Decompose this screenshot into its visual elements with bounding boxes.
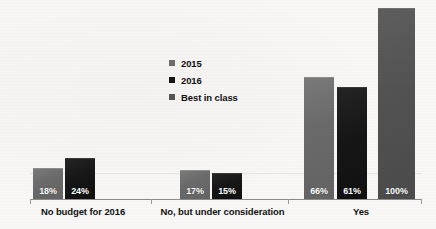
legend-swatch-icon bbox=[169, 60, 175, 66]
legend-item-label: Best in class bbox=[181, 92, 238, 103]
legend-item-label: 2015 bbox=[181, 58, 202, 69]
bar-yes-best-value-label: 100% bbox=[378, 186, 415, 196]
legend-item-2015[interactable]: 2015 bbox=[169, 56, 238, 70]
category-label-1: No, but under consideration bbox=[150, 206, 295, 217]
bar-no-budget-2016: 24% bbox=[65, 158, 95, 199]
bar-no-budget-2016-value-label: 24% bbox=[65, 186, 95, 196]
legend-item-best-in-class[interactable]: Best in class bbox=[169, 90, 238, 104]
bar-yes-2016-value-label: 61% bbox=[337, 186, 367, 196]
legend-item-label: 2016 bbox=[181, 75, 202, 86]
bar-chart: 18%24%17%15%66%61%100% 20152016Best in c… bbox=[0, 0, 436, 229]
category-label-2: Yes bbox=[300, 206, 422, 217]
x-axis-line bbox=[30, 199, 422, 200]
bar-consideration-2016-value-label: 15% bbox=[212, 186, 242, 196]
axis-tick-0 bbox=[30, 199, 31, 204]
bar-yes-2015-value-label: 66% bbox=[304, 186, 334, 196]
bar-yes-2015-fill bbox=[304, 77, 334, 199]
chart-legend: 20152016Best in class bbox=[169, 56, 238, 107]
bar-consideration-2016: 15% bbox=[212, 173, 242, 199]
bar-no-budget-2015-value-label: 18% bbox=[33, 186, 63, 196]
bar-consideration-2015-value-label: 17% bbox=[180, 186, 210, 196]
category-label-0: No budget for 2016 bbox=[22, 206, 144, 217]
legend-item-2016[interactable]: 2016 bbox=[169, 73, 238, 87]
bar-consideration-2015: 17% bbox=[180, 170, 210, 199]
axis-tick-3 bbox=[421, 199, 422, 204]
plot-area: 18%24%17%15%66%61%100% 20152016Best in c… bbox=[0, 0, 436, 199]
bar-yes-2016-fill bbox=[337, 87, 367, 199]
bar-yes-best-fill bbox=[378, 8, 415, 199]
bar-yes-best: 100% bbox=[378, 8, 415, 199]
axis-tick-1 bbox=[151, 199, 152, 204]
axis-tick-2 bbox=[288, 199, 289, 204]
legend-swatch-icon bbox=[169, 77, 175, 83]
legend-swatch-icon bbox=[169, 94, 175, 100]
bar-yes-2015: 66% bbox=[304, 77, 334, 199]
bar-yes-2016: 61% bbox=[337, 87, 367, 199]
bar-no-budget-2015: 18% bbox=[33, 168, 63, 199]
